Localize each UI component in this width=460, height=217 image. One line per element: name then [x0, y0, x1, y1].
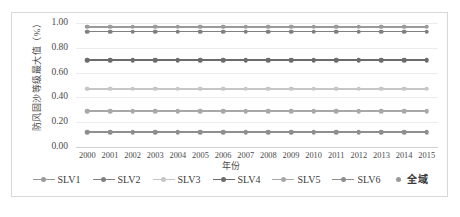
data-point: [198, 130, 203, 135]
y-tick-label: 0.60: [34, 68, 68, 78]
data-point: [243, 130, 248, 135]
data-point: [130, 130, 135, 135]
x-axis-title: 年份: [12, 161, 449, 171]
data-point: [424, 130, 429, 135]
y-tick-label: 0.20: [34, 117, 68, 127]
legend-swatch-icon: [213, 176, 235, 184]
legend-swatch-icon: [33, 176, 55, 184]
data-point: [176, 130, 181, 135]
data-point: [108, 130, 113, 135]
series-line: [87, 131, 426, 133]
data-point: [357, 130, 362, 135]
x-axis-line: [76, 147, 438, 148]
y-tick-label: 1.00: [34, 18, 68, 28]
data-point: [402, 130, 407, 135]
legend-item-slv2[interactable]: SLV2: [93, 174, 141, 185]
chart-container: 防风固沙等级最大值（%） 0.000.200.400.600.801.00 20…: [11, 12, 448, 197]
data-point: [311, 130, 316, 135]
legend-label: SLV2: [117, 174, 141, 185]
legend-item-slv6[interactable]: SLV6: [332, 174, 380, 185]
legend-label: SLV1: [57, 174, 81, 185]
data-point: [379, 130, 384, 135]
data-point: [221, 130, 226, 135]
series-slv6: [76, 23, 438, 147]
data-point: [85, 130, 90, 135]
legend-swatch-icon: [272, 176, 294, 184]
legend-item-slv5[interactable]: SLV5: [272, 174, 320, 185]
data-point: [153, 130, 158, 135]
legend-swatch-icon: [332, 176, 354, 184]
legend-swatch-icon: [153, 176, 175, 184]
data-point: [289, 130, 294, 135]
data-point: [266, 130, 271, 135]
y-tick-label: 0.40: [34, 92, 68, 102]
data-point: [334, 130, 339, 135]
plot-area: [76, 23, 438, 147]
legend-label: SLV6: [356, 174, 380, 185]
x-tick-label: 2015: [412, 151, 442, 160]
legend-item-slv1[interactable]: SLV1: [33, 174, 81, 185]
legend-item-slv3[interactable]: SLV3: [153, 174, 201, 185]
y-tick-label: 0.00: [34, 142, 68, 152]
chart-legend: SLV1SLV2SLV3SLV4SLV5SLV6全域: [12, 174, 449, 185]
legend-swatch-icon: [93, 176, 115, 184]
legend-item-slv4[interactable]: SLV4: [213, 174, 261, 185]
legend-label: SLV5: [296, 174, 320, 185]
legend-label: SLV3: [177, 174, 201, 185]
legend-label: SLV4: [237, 174, 261, 185]
y-tick-label: 0.80: [34, 43, 68, 53]
legend-swatch-icon: [392, 176, 404, 184]
legend-label: 全域: [406, 174, 428, 185]
legend-item-全域[interactable]: 全域: [392, 174, 428, 185]
